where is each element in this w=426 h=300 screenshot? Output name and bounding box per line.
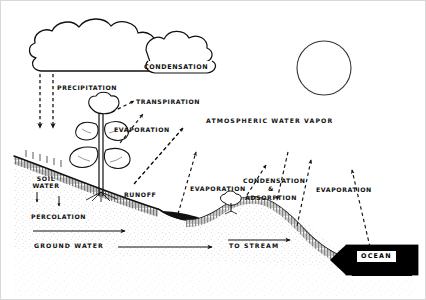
arrow-evaporation-ocean-up <box>352 170 370 247</box>
label-condensation-adsorption: CONDENSATION & ADSORPTION <box>243 177 299 202</box>
arrow-evaporation-from-soil <box>134 128 183 184</box>
label-evaporation-right: EVAPORATION <box>316 187 372 194</box>
sun-circle <box>297 41 351 95</box>
water-cycle-diagram: CONDENSATION PRECIPITATION TRANSPIRATION… <box>0 0 426 300</box>
label-atmospheric-water-vapor: ATMOSPHERIC WATER VAPOR <box>206 118 333 125</box>
label-percolation: PERCOLATION <box>31 214 86 221</box>
arrow-evaporation-mid-up <box>178 152 196 214</box>
label-evaporation-mid: EVAPORATION <box>190 186 246 193</box>
label-evaporation-plant: EVAPORATION <box>114 127 170 134</box>
label-transpiration: TRANSPIRATION <box>136 99 200 106</box>
label-ground-water: GROUND WATER <box>34 243 104 250</box>
cumulus-cloud <box>29 19 160 71</box>
label-condensation-cloud: CONDENSATION <box>144 64 208 71</box>
arrow-evaporation-stream-up <box>297 160 311 226</box>
label-soil-water: SOIL WATER <box>25 176 67 189</box>
arrow-runoff <box>134 128 183 184</box>
label-precipitation: PRECIPITATION <box>57 85 117 92</box>
label-runoff: RUNOFF <box>124 192 156 199</box>
label-to-stream: TO STREAM <box>229 243 279 250</box>
label-ocean: OCEAN <box>356 250 397 263</box>
